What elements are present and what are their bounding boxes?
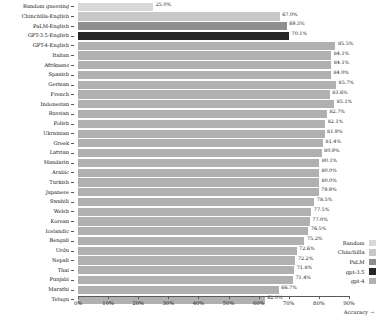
category-label: Arabic xyxy=(0,168,74,177)
category-label-text: GPT-4-English xyxy=(33,42,69,48)
bar xyxy=(78,208,311,216)
bar-row: 83.6% xyxy=(78,90,349,99)
category-tick-mark xyxy=(71,260,74,261)
bar-value-label: 67.0% xyxy=(282,11,297,17)
category-label-text: Arabic xyxy=(52,169,69,175)
bar xyxy=(78,120,325,128)
category-tick-mark xyxy=(71,85,74,86)
bar-value-label: 70.1% xyxy=(292,30,307,36)
bar xyxy=(78,276,293,284)
legend-item: gpt-3.5 xyxy=(302,267,376,277)
category-label: Afrikaans xyxy=(0,61,74,70)
bar xyxy=(78,188,319,196)
bar-row: 66.7% xyxy=(78,285,349,294)
bar-value-label: 80.0% xyxy=(321,177,336,183)
bar-value-label: 78.5% xyxy=(317,196,332,202)
bar-row: 84.1% xyxy=(78,61,349,70)
bar-value-label: 66.7% xyxy=(281,284,296,290)
category-label-text: Afrikaans xyxy=(44,62,69,68)
bar-row: 67.0% xyxy=(78,12,349,21)
category-label-text: Mandarin xyxy=(44,159,69,165)
bar xyxy=(78,110,327,118)
bar-value-label: 81.9% xyxy=(327,128,342,134)
category-label: Japanese xyxy=(0,188,74,197)
legend-item: Random xyxy=(302,238,376,248)
x-tick-mark xyxy=(289,296,290,299)
category-label-text: Ukrainian xyxy=(43,130,69,136)
bar-row: 79.9% xyxy=(78,188,349,197)
bar xyxy=(78,266,294,274)
bar-value-label: 69.3% xyxy=(289,20,304,26)
category-label-text: Spanish xyxy=(48,71,69,77)
category-label: Icelandic xyxy=(0,227,74,236)
category-tick-mark xyxy=(71,153,74,154)
bar-row: 69.3% xyxy=(78,22,349,31)
bar-value-label: 85.5% xyxy=(338,40,353,46)
bar-value-label: 84.1% xyxy=(334,50,349,56)
category-label: Punjabi xyxy=(0,275,74,284)
legend-item-label: PaLM xyxy=(349,259,364,265)
legend-item: PaLM xyxy=(302,257,376,267)
category-label-text: Urdu xyxy=(56,247,69,253)
bar-row: 80.0% xyxy=(78,178,349,187)
category-tick-mark xyxy=(71,16,74,17)
bar-row: 77.0% xyxy=(78,217,349,226)
legend-item-label: gpt-4 xyxy=(351,278,365,284)
category-label-text: Polish xyxy=(54,120,69,126)
legend-item-label: gpt-3.5 xyxy=(346,269,365,275)
category-label-text: GPT-3.5-English xyxy=(28,32,69,38)
x-tick-mark xyxy=(168,296,169,299)
category-tick-mark xyxy=(71,36,74,37)
bar-value-label: 82.7% xyxy=(330,108,345,114)
category-label: Ukrainian xyxy=(0,129,74,138)
category-label-text: Swahili xyxy=(50,198,69,204)
bar xyxy=(78,42,335,50)
category-tick-mark xyxy=(71,65,74,66)
category-label-text: Thai xyxy=(58,267,69,273)
bar xyxy=(78,12,280,20)
bar-value-label: 84.1% xyxy=(334,59,349,65)
category-label-text: Chinchilla-English xyxy=(22,13,69,19)
category-label: Spanish xyxy=(0,70,74,79)
category-label-text: Icelandic xyxy=(45,228,69,234)
legend-item-label: Random xyxy=(343,240,365,246)
category-tick-mark xyxy=(71,290,74,291)
category-tick-mark xyxy=(71,124,74,125)
bar xyxy=(78,3,153,11)
bar xyxy=(78,130,325,138)
x-tick-mark xyxy=(198,296,199,299)
bar xyxy=(78,256,295,264)
category-label-text: Bengali xyxy=(49,237,69,243)
bar xyxy=(78,71,331,79)
legend-item: Chinchilla xyxy=(302,248,376,258)
bar-row: 84.1% xyxy=(78,51,349,60)
x-tick-label: 30% xyxy=(163,300,175,306)
x-tick-label: 80% xyxy=(313,300,325,306)
x-tick-label: 20% xyxy=(132,300,144,306)
category-label-text: Welsh xyxy=(54,208,69,214)
category-tick-mark xyxy=(71,251,74,252)
bar-row: 78.5% xyxy=(78,197,349,206)
category-tick-mark xyxy=(71,241,74,242)
category-tick-mark xyxy=(71,192,74,193)
category-tick-mark xyxy=(71,143,74,144)
legend-color-swatch xyxy=(369,278,377,285)
x-tick-label: 90% xyxy=(343,300,355,306)
bar-row: 81.9% xyxy=(78,129,349,138)
category-label-text: Random guessing xyxy=(23,3,69,9)
bar-row: 82.1% xyxy=(78,119,349,128)
category-tick-mark xyxy=(71,172,74,173)
category-tick-mark xyxy=(71,202,74,203)
bar xyxy=(78,237,304,245)
bar-row: 77.5% xyxy=(78,207,349,216)
bar xyxy=(78,247,297,255)
category-label: Polish xyxy=(0,119,74,128)
category-label-text: French xyxy=(51,91,69,97)
category-label-text: German xyxy=(48,81,69,87)
category-label-text: Latvian xyxy=(50,149,69,155)
bar xyxy=(78,32,289,40)
x-tick-mark xyxy=(108,296,109,299)
bar xyxy=(78,100,334,108)
bar-row: 25.0% xyxy=(78,2,349,11)
category-label: Russian xyxy=(0,109,74,118)
